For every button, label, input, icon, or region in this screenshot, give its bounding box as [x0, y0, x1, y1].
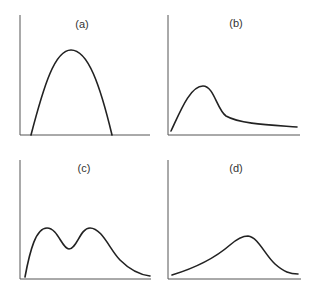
- panel-d-label: (d): [229, 162, 242, 174]
- panel-d-axes: [168, 160, 301, 279]
- panel-c-curve: [25, 228, 150, 277]
- panel-a: (a): [20, 15, 150, 135]
- panel-d-curve: [172, 236, 298, 275]
- panel-c-label: (c): [78, 162, 91, 174]
- panel-b-curve: [171, 86, 297, 131]
- panel-a-axes: [20, 15, 150, 135]
- panel-d: (d): [168, 160, 301, 279]
- panel-c-axes: [20, 160, 151, 279]
- panel-b-axes: [168, 15, 300, 135]
- figure-canvas: (a) (b) (c) (d): [0, 0, 316, 295]
- panel-c: (c): [20, 160, 151, 279]
- panel-b: (b): [168, 15, 300, 135]
- panel-b-label: (b): [229, 17, 242, 29]
- panel-a-label: (a): [75, 18, 88, 30]
- panel-a-curve: [31, 50, 112, 135]
